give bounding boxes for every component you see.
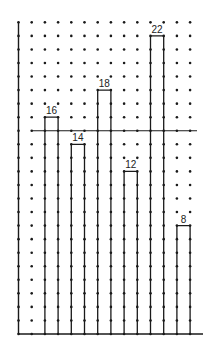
grid-dot <box>176 184 179 187</box>
data-label: 12 <box>125 159 137 170</box>
bar-chart: 16141812228 <box>0 0 211 350</box>
bar <box>71 144 84 334</box>
grid-dot <box>83 116 86 119</box>
grid-dot <box>123 116 126 119</box>
grid-dot <box>176 143 179 146</box>
grid-dot <box>30 48 33 51</box>
data-label: 14 <box>72 132 84 143</box>
grid-dot <box>70 21 73 24</box>
grid-dot <box>136 48 139 51</box>
data-label: 18 <box>99 78 111 89</box>
grid-dot <box>57 48 60 51</box>
grid-dot <box>70 48 73 51</box>
grid-dot <box>136 75 139 78</box>
grid-dot <box>30 292 33 295</box>
grid-dot <box>30 75 33 78</box>
grid-dot <box>96 62 99 65</box>
bar <box>98 90 111 334</box>
grid-dot <box>189 157 192 160</box>
grid-dot <box>176 75 179 78</box>
grid-dot <box>30 21 33 24</box>
grid-dot <box>70 89 73 92</box>
grid-dot <box>189 170 192 173</box>
grid-dot <box>57 102 60 105</box>
grid-dot <box>83 48 86 51</box>
grid-dot <box>70 102 73 105</box>
bars <box>45 36 190 334</box>
grid-dot <box>83 89 86 92</box>
grid-dot <box>70 75 73 78</box>
grid-dot <box>123 21 126 24</box>
data-label: 16 <box>46 105 58 116</box>
grid-dot <box>30 211 33 214</box>
grid-dot <box>83 75 86 78</box>
grid-dot <box>83 35 86 38</box>
grid-dot <box>30 35 33 38</box>
grid-dot <box>30 251 33 254</box>
grid-dot <box>44 62 47 65</box>
bar <box>45 117 58 334</box>
grid-dot <box>189 89 192 92</box>
grid-dot <box>136 116 139 119</box>
grid-dot <box>96 21 99 24</box>
grid-dot <box>30 184 33 187</box>
grid-dot <box>136 143 139 146</box>
grid-dot <box>30 62 33 65</box>
grid-dot <box>83 62 86 65</box>
grid-dot <box>110 21 113 24</box>
bar <box>151 36 164 334</box>
grid-dot <box>123 89 126 92</box>
grid-dot <box>176 35 179 38</box>
data-label: 22 <box>152 24 164 35</box>
grid-dot <box>30 319 33 322</box>
grid-dot <box>44 48 47 51</box>
grid-dot <box>136 102 139 105</box>
grid-dot <box>123 143 126 146</box>
grid-dot <box>30 197 33 200</box>
grid-dot <box>176 62 179 65</box>
grid-dot <box>96 48 99 51</box>
grid-dot <box>57 89 60 92</box>
grid-dot <box>189 21 192 24</box>
grid-dot <box>44 89 47 92</box>
grid-dot <box>30 306 33 309</box>
grid-dot <box>30 170 33 173</box>
grid-dot <box>123 75 126 78</box>
grid-dot <box>176 157 179 160</box>
grid-dot <box>176 170 179 173</box>
grid-dot <box>189 102 192 105</box>
grid-dot <box>57 62 60 65</box>
grid-dot <box>110 48 113 51</box>
grid-dot <box>44 21 47 24</box>
grid-dot <box>176 48 179 51</box>
data-label: 8 <box>181 214 187 225</box>
grid-dot <box>162 21 165 24</box>
grid-dot <box>30 143 33 146</box>
bar <box>124 171 137 334</box>
grid-dot <box>189 143 192 146</box>
grid-dot <box>44 75 47 78</box>
grid-dot <box>57 35 60 38</box>
grid-dot <box>189 184 192 187</box>
grid-dot <box>189 116 192 119</box>
grid-dot <box>189 75 192 78</box>
grid-dot <box>83 102 86 105</box>
grid-dot <box>176 21 179 24</box>
grid-dot <box>30 265 33 268</box>
grid-dot <box>189 197 192 200</box>
grid-dot <box>110 35 113 38</box>
grid-dot <box>123 102 126 105</box>
grid-dot <box>70 116 73 119</box>
grid-dot <box>70 62 73 65</box>
grid-dot <box>30 89 33 92</box>
grid-dot <box>30 102 33 105</box>
grid-dot <box>176 211 179 214</box>
grid-dot <box>123 35 126 38</box>
grid-dot <box>189 62 192 65</box>
grid-dot <box>176 89 179 92</box>
grid-dot <box>96 35 99 38</box>
grid-dot <box>136 89 139 92</box>
grid-dot <box>189 48 192 51</box>
grid-dot <box>136 21 139 24</box>
grid-dot <box>110 75 113 78</box>
